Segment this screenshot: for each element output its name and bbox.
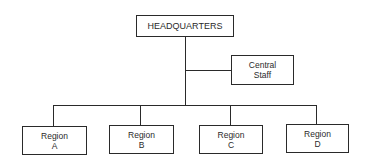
- region-c-box: Region C: [199, 125, 263, 154]
- headquarters-label: HEADQUARTERS: [148, 21, 223, 31]
- region-b-label-line1: Region: [128, 130, 155, 140]
- region-a-drop-line: [53, 105, 54, 126]
- region-d-drop-line: [316, 105, 317, 124]
- region-a-label-line1: Region: [41, 131, 68, 141]
- region-d-label-line1: Region: [304, 129, 331, 139]
- headquarters-box: HEADQUARTERS: [136, 15, 234, 37]
- staff-connector-line: [185, 70, 231, 71]
- region-d-label-line2: D: [314, 139, 320, 149]
- region-b-label-line2: B: [139, 140, 145, 150]
- region-b-box: Region B: [109, 125, 174, 154]
- region-d-box: Region D: [286, 124, 349, 153]
- region-a-label-line2: A: [52, 141, 58, 151]
- region-c-drop-line: [230, 105, 231, 125]
- region-b-drop-line: [140, 105, 141, 125]
- region-c-label-line2: C: [228, 140, 234, 150]
- central-staff-label-line2: Staff: [254, 70, 271, 80]
- region-c-label-line1: Region: [218, 130, 245, 140]
- region-a-box: Region A: [22, 126, 87, 155]
- central-staff-box: Central Staff: [231, 55, 294, 85]
- regions-bus-line: [53, 105, 317, 106]
- central-staff-label-line1: Central: [249, 60, 276, 70]
